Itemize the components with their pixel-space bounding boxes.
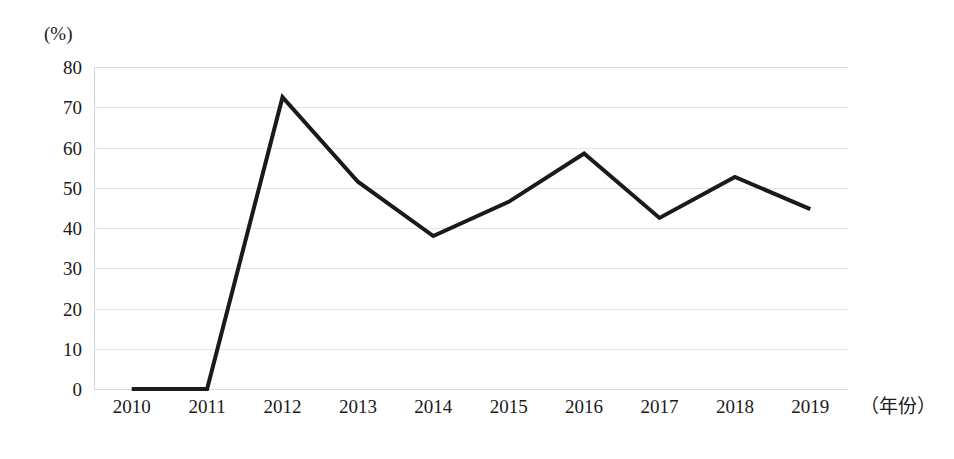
x-tick-label-2014: 2014 [393, 397, 473, 416]
x-tick-label-2015: 2015 [469, 397, 549, 416]
x-tick-label-2013: 2013 [318, 397, 398, 416]
x-axis-title: （年份） [860, 397, 936, 416]
line-chart-figure: (%) 01020304050607080 201020112012201320… [0, 0, 954, 459]
y-tick-label-80: 80 [36, 58, 82, 77]
x-tick-label-2012: 2012 [243, 397, 323, 416]
y-tick-label-10: 10 [36, 339, 82, 358]
y-tick-label-40: 40 [36, 219, 82, 238]
x-tick-label-2010: 2010 [92, 397, 172, 416]
y-tick-label-20: 20 [36, 299, 82, 318]
y-tick-label-70: 70 [36, 98, 82, 117]
series-line-path [132, 97, 811, 389]
y-tick-label-30: 30 [36, 259, 82, 278]
y-axis-tick-label-group: 01020304050607080 [36, 67, 82, 389]
x-tick-label-2016: 2016 [544, 397, 624, 416]
x-tick-label-2017: 2017 [620, 397, 700, 416]
x-tick-label-2019: 2019 [770, 397, 850, 416]
plot-area [94, 67, 848, 389]
x-tick-label-2018: 2018 [695, 397, 775, 416]
x-tick-label-2011: 2011 [167, 397, 247, 416]
y-tick-label-50: 50 [36, 178, 82, 197]
x-axis-tick-label-group: 2010201120122013201420152016201720182019 [94, 397, 848, 427]
y-axis-unit-label: (%) [44, 24, 72, 43]
series-line-group [94, 67, 848, 389]
y-tick-label-60: 60 [36, 138, 82, 157]
y-tick-label-0: 0 [36, 380, 82, 399]
